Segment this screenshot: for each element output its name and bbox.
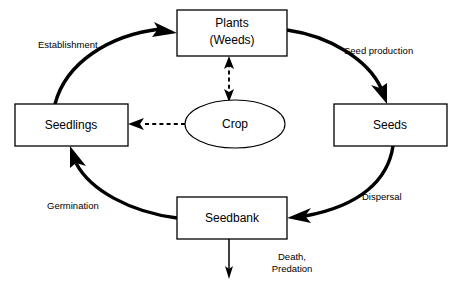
edge-label-predation: Predation: [272, 263, 313, 274]
node-plants[interactable]: Plants (Weeds): [177, 10, 287, 56]
node-seeds[interactable]: Seeds: [334, 104, 447, 146]
edge-crop-plants: [224, 56, 234, 102]
node-crop[interactable]: Crop: [185, 100, 285, 148]
plants-label-line1: Plants: [215, 16, 248, 30]
edge-establishment: [55, 22, 177, 104]
seedbank-label: Seedbank: [205, 211, 260, 225]
edge-label-germination: Germination: [47, 200, 99, 211]
node-seedbank[interactable]: Seedbank: [177, 197, 287, 239]
edge-label-dispersal: Dispersal: [362, 191, 402, 202]
seedlings-label: Seedlings: [45, 118, 98, 132]
plants-label-line2: (Weeds): [209, 33, 254, 47]
edge-death-predation: [225, 239, 233, 279]
dispersal-arrow-path: [305, 146, 393, 216]
edge-seed-production: [287, 30, 387, 104]
edge-dispersal: [287, 146, 393, 223]
seed-production-arrow-path: [287, 30, 381, 88]
edge-label-seed-production: Seed production: [344, 45, 413, 56]
edge-label-establishment: Establishment: [38, 39, 98, 50]
weed-life-cycle-diagram: Plants (Weeds) Seeds Seedbank Seedlings …: [0, 0, 462, 287]
crop-label: Crop: [222, 117, 248, 131]
edge-crop-seedlings: [128, 118, 185, 130]
diagram-canvas: Plants (Weeds) Seeds Seedbank Seedlings …: [0, 0, 462, 287]
edge-label-death: Death,: [278, 251, 306, 262]
crop-seedlings-arrow-head: [128, 118, 144, 130]
seeds-label: Seeds: [373, 118, 407, 132]
node-seedlings[interactable]: Seedlings: [15, 104, 128, 146]
